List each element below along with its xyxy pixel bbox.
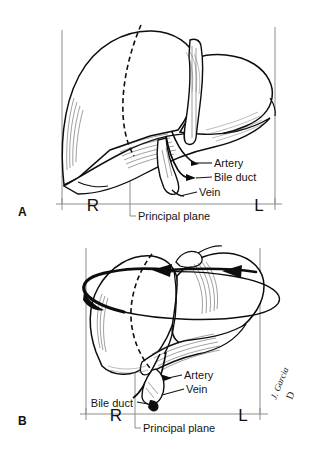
side-marker-left-b: L — [238, 406, 247, 425]
callout-label-artery-b: Artery — [184, 369, 214, 381]
principal-plane-caption-b: Principal plane — [143, 422, 215, 434]
liver-figure-svg: Artery Bile duct Vein R L Principal plan… — [0, 0, 318, 458]
principal-plane-caption-a: Principal plane — [138, 210, 210, 222]
side-marker-right-b: R — [110, 406, 122, 425]
panel-letter-a: A — [18, 205, 27, 219]
callout-label-bile-duct-a: Bile duct — [214, 171, 256, 183]
panel-letter-b: B — [18, 414, 27, 428]
callout-label-vein-b: Vein — [186, 383, 207, 395]
callout-label-vein-a: Vein — [199, 186, 220, 198]
figure-root: Artery Bile duct Vein R L Principal plan… — [0, 0, 318, 458]
side-marker-left-a: L — [254, 196, 263, 215]
callout-label-artery-a: Artery — [214, 157, 244, 169]
side-marker-right-a: R — [87, 196, 99, 215]
